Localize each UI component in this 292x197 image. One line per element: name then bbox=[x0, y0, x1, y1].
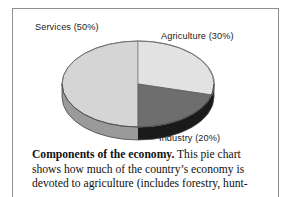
pie-label-services: Services (50%) bbox=[35, 22, 99, 32]
pie-chart-area: Services (50%) Agriculture (30%) Industr… bbox=[13, 9, 278, 145]
pie-label-agriculture: Agriculture (30%) bbox=[161, 31, 234, 41]
frame-border-right bbox=[278, 8, 279, 197]
figure-container: Services (50%) Agriculture (30%) Industr… bbox=[0, 0, 292, 197]
figure-caption: Components of the economy. This pie char… bbox=[32, 148, 270, 192]
caption-title: Components of the economy. bbox=[32, 148, 174, 161]
pie-label-industry: Industry (20%) bbox=[159, 133, 220, 143]
